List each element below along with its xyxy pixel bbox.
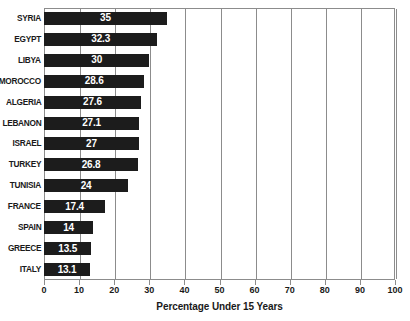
bar: 30 — [44, 54, 149, 67]
x-axis-tick-label: 0 — [41, 286, 46, 295]
bar-row: 14 — [44, 217, 395, 238]
bar-row: 26.8 — [44, 154, 395, 175]
bar: 27.6 — [44, 96, 141, 109]
bar: 32.3 — [44, 33, 157, 46]
bar-value-label: 14 — [63, 223, 74, 233]
category-label-row: FRANCE — [0, 196, 41, 217]
bar-row: 28.6 — [44, 71, 395, 92]
category-label: ISRAEL — [12, 139, 41, 148]
category-axis-labels: SYRIAEGYPTLIBYAMOROCCOALGERIALEBANONISRA… — [0, 8, 41, 280]
x-axis-title: Percentage Under 15 Years — [44, 302, 395, 312]
bar-row: 13.5 — [44, 238, 395, 259]
bar-value-label: 28.6 — [85, 76, 104, 86]
category-label-row: TURKEY — [0, 154, 41, 175]
bar: 35 — [44, 12, 167, 25]
bar-value-label: 27 — [86, 139, 97, 149]
x-axis-tick-label: 40 — [179, 286, 189, 295]
bar: 26.8 — [44, 158, 138, 171]
bar-value-label: 30 — [91, 55, 102, 65]
category-label-row: SYRIA — [0, 8, 41, 29]
bar-value-label: 27.6 — [83, 97, 102, 107]
category-label: ALGERIA — [6, 98, 41, 107]
bar: 27.1 — [44, 117, 139, 130]
bar-value-label: 27.1 — [82, 118, 101, 128]
category-label-row: LEBANON — [0, 113, 41, 134]
x-axis-tick-label: 10 — [74, 286, 84, 295]
category-label-row: EGYPT — [0, 29, 41, 50]
category-label: LIBYA — [18, 56, 41, 65]
bar: 28.6 — [44, 75, 144, 88]
category-label-row: ALGERIA — [0, 92, 41, 113]
bars-layer: 3532.33028.627.627.12726.82417.41413.513… — [44, 8, 395, 280]
category-label: ITALY — [20, 265, 41, 274]
x-axis-tick-label: 30 — [144, 286, 154, 295]
bar-value-label: 13.5 — [58, 244, 77, 254]
category-label-row: ITALY — [0, 259, 41, 280]
category-label: FRANCE — [8, 202, 41, 211]
bar-value-label: 35 — [100, 13, 111, 23]
x-axis-tick-label: 90 — [355, 286, 365, 295]
bar: 13.5 — [44, 242, 91, 255]
category-label-row: GREECE — [0, 238, 41, 259]
bar-row: 30 — [44, 50, 395, 71]
category-label-row: ISRAEL — [0, 134, 41, 155]
bar-value-label: 17.4 — [65, 202, 84, 212]
bar-value-label: 26.8 — [82, 160, 101, 170]
category-label: TUNISIA — [10, 181, 41, 190]
category-label: LEBANON — [2, 119, 41, 128]
category-label: TURKEY — [9, 160, 41, 169]
category-label-row: TUNISIA — [0, 175, 41, 196]
x-axis-tick-labels: 0102030405060708090100 — [44, 286, 395, 298]
bar-row: 27.1 — [44, 113, 395, 134]
bar-row: 35 — [44, 8, 395, 29]
bar: 27 — [44, 137, 139, 150]
bar: 24 — [44, 179, 128, 192]
x-axis-tick-label: 50 — [214, 286, 224, 295]
x-axis-tick-label: 70 — [285, 286, 295, 295]
bar-value-label: 24 — [81, 181, 92, 191]
bar-row: 27.6 — [44, 92, 395, 113]
bar-row: 13.1 — [44, 259, 395, 280]
category-label: SPAIN — [18, 223, 41, 232]
bar-row: 27 — [44, 134, 395, 155]
category-label: MOROCCO — [0, 77, 41, 86]
category-label-row: MOROCCO — [0, 71, 41, 92]
category-label: GREECE — [8, 244, 41, 253]
x-axis-tick-label: 20 — [109, 286, 119, 295]
gridline — [396, 9, 397, 279]
x-axis-tick-label: 80 — [320, 286, 330, 295]
bar-value-label: 13.1 — [58, 265, 77, 275]
bar-value-label: 32.3 — [91, 34, 110, 44]
category-label: EGYPT — [14, 35, 41, 44]
bar: 17.4 — [44, 200, 105, 213]
bar: 14 — [44, 221, 93, 234]
category-label: SYRIA — [17, 14, 41, 23]
bar-chart: SYRIAEGYPTLIBYAMOROCCOALGERIALEBANONISRA… — [0, 0, 410, 321]
bar-row: 17.4 — [44, 196, 395, 217]
bar: 13.1 — [44, 263, 90, 276]
x-axis-tick-label: 100 — [387, 286, 402, 295]
bar-row: 32.3 — [44, 29, 395, 50]
bar-row: 24 — [44, 175, 395, 196]
category-label-row: LIBYA — [0, 50, 41, 71]
x-axis-tick-label: 60 — [250, 286, 260, 295]
category-label-row: SPAIN — [0, 217, 41, 238]
